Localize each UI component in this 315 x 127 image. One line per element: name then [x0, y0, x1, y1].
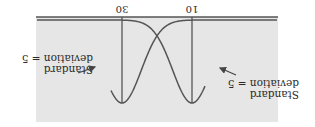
tick-label-10: 10 — [186, 4, 199, 15]
tick-label-30: 30 — [116, 4, 129, 15]
normal-distributions-figure: 10 30 Standard deviation = 5 Standard de… — [0, 0, 315, 127]
annotation-left-line1: Standard — [250, 89, 299, 101]
annotation-right-line2: deviation = 5 — [22, 53, 93, 65]
annotation-left-line2: deviation = 5 — [228, 78, 299, 90]
figure-canvas: 10 30 Standard deviation = 5 Standard de… — [0, 0, 315, 127]
